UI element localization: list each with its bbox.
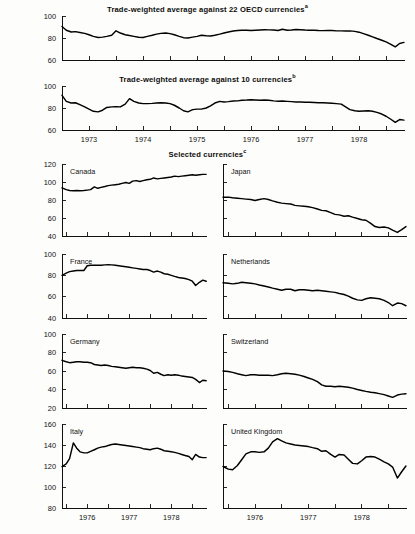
chart-g10: 6080100197319741975197619771978	[0, 82, 415, 150]
figure-page: Trade-weighted average against 22 OECD c…	[0, 0, 415, 534]
y-tick-label: 120	[44, 462, 56, 471]
x-tick-label: 1974	[135, 135, 151, 144]
y-tick-label: 60	[48, 367, 56, 376]
chart-italy: 80100120140160197619771978Italy	[0, 418, 215, 534]
series-label: Germany	[70, 337, 100, 346]
y-tick-label: 80	[48, 504, 56, 513]
x-tick-label: 1978	[353, 513, 369, 522]
x-tick-label: 1976	[243, 135, 259, 144]
data-line	[223, 197, 406, 232]
y-tick-label: 20	[48, 404, 56, 413]
chart-japan: Japan	[215, 158, 415, 246]
footnote-marker-b: b	[292, 73, 296, 79]
y-tick-label: 100	[44, 82, 56, 91]
y-tick-label: 60	[48, 56, 56, 65]
x-tick-label: 1975	[189, 135, 205, 144]
footnote-marker-c: c	[243, 148, 246, 154]
x-tick-label: 1978	[163, 513, 179, 522]
section-title-selected-currencies: Selected currenciesc	[0, 148, 415, 159]
y-tick-label: 80	[48, 196, 56, 205]
chart-france: 406080100France	[0, 248, 215, 326]
series-label: France	[70, 257, 92, 266]
y-tick-label: 60	[48, 214, 56, 223]
footnote-marker-a: a	[305, 3, 308, 9]
data-line	[223, 371, 406, 397]
y-tick-label: 60	[48, 126, 56, 135]
series-label: Japan	[231, 167, 251, 176]
chart-switzerland: Switzerland	[215, 328, 415, 416]
x-tick-label: 1973	[81, 135, 97, 144]
y-tick-label: 100	[44, 250, 56, 259]
data-line	[62, 174, 206, 190]
data-line	[62, 26, 404, 46]
x-tick-label: 1977	[121, 513, 137, 522]
axis-spine	[223, 424, 407, 508]
series-label: Switzerland	[231, 337, 268, 346]
axis-spine	[62, 86, 405, 130]
chart-germany: 20406080100Germany	[0, 328, 215, 416]
y-tick-label: 40	[48, 314, 56, 323]
chart-united-kingdom: 197619771978United Kingdom	[215, 418, 415, 534]
series-label: Italy	[70, 427, 84, 436]
data-line	[223, 282, 406, 305]
x-tick-label: 1976	[247, 513, 263, 522]
data-line	[62, 95, 404, 122]
data-line	[223, 439, 406, 478]
y-tick-label: 80	[48, 34, 56, 43]
y-tick-label: 80	[48, 271, 56, 280]
y-tick-label: 100	[44, 330, 56, 339]
data-line	[62, 443, 206, 467]
x-tick-label: 1977	[300, 513, 316, 522]
series-label: United Kingdom	[231, 427, 282, 436]
y-tick-label: 140	[44, 441, 56, 450]
chart-netherlands: Netherlands	[215, 248, 415, 326]
data-line	[62, 360, 206, 382]
x-tick-label: 1977	[297, 135, 313, 144]
axis-spine	[62, 424, 207, 508]
y-tick-label: 40	[48, 232, 56, 241]
series-label: Canada	[70, 167, 95, 176]
axis-spine	[62, 16, 405, 60]
y-tick-label: 80	[48, 348, 56, 357]
x-tick-label: 1978	[351, 135, 367, 144]
chart-oecd22: 6080100	[0, 12, 415, 70]
chart-canada: 406080100120Canada	[0, 158, 215, 246]
data-line	[62, 265, 206, 286]
y-tick-label: 100	[44, 12, 56, 21]
series-label: Netherlands	[231, 257, 270, 266]
y-tick-label: 80	[48, 104, 56, 113]
y-tick-label: 60	[48, 292, 56, 301]
y-tick-label: 100	[44, 178, 56, 187]
y-tick-label: 120	[44, 160, 56, 169]
y-tick-label: 40	[48, 385, 56, 394]
x-tick-label: 1976	[79, 513, 95, 522]
y-tick-label: 100	[44, 483, 56, 492]
y-tick-label: 160	[44, 420, 56, 429]
